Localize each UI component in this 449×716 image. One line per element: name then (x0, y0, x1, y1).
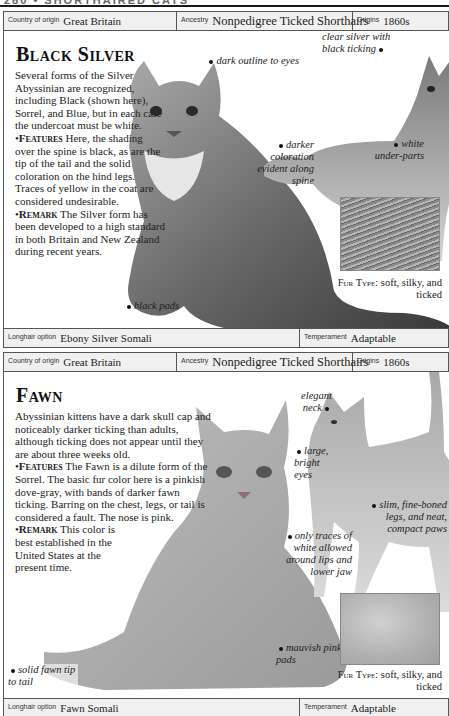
country-label: Country of origin (8, 16, 59, 23)
pointer-dot-icon (209, 60, 213, 64)
caption-pads: mauvish pink pads (276, 642, 346, 666)
ancestry-label: Ancestry (181, 357, 208, 364)
features-label: Features (19, 460, 63, 472)
longhair-cell: Longhair option Fawn Somali (4, 699, 300, 716)
pointer-dot-icon (394, 143, 398, 147)
description-text: Several forms of the Silver Abyssinian a… (15, 69, 165, 258)
longhair-label: Longhair option (8, 703, 56, 710)
description-text: Abyssinian kittens have a dark skull cap… (15, 410, 215, 574)
longhair-label: Longhair option (8, 333, 56, 340)
origins-value: 1860s (383, 15, 409, 27)
country-cell: Country of origin Great Britain (4, 12, 177, 30)
pointer-dot-icon (11, 669, 15, 673)
temperament-label: Temperament (304, 333, 347, 340)
info-bar-fawn: Country of origin Great Britain Ancestry… (3, 352, 449, 372)
footer-bar-black-silver: Longhair option Ebony Silver Somali Temp… (3, 328, 449, 348)
origins-label: Origins (357, 357, 379, 364)
caption-neck: elegant neck (294, 390, 332, 414)
origins-value: 1860s (383, 356, 409, 368)
breed-title: Black Silver (16, 43, 135, 66)
pointer-dot-icon (325, 407, 329, 411)
pointer-dot-icon (288, 535, 292, 539)
country-label: Country of origin (8, 357, 59, 364)
ancestry-cell: Ancestry Nonpedigree Ticked Shorthairs (177, 12, 353, 30)
panel-black-silver: Black Silver Several forms of the Silver… (3, 31, 449, 328)
origins-cell: Origins 1860s (353, 12, 448, 30)
header-rule (0, 5, 449, 7)
pointer-dot-icon (127, 305, 131, 309)
ancestry-value: Nonpedigree Ticked Shorthairs (212, 14, 368, 29)
pointer-dot-icon (279, 144, 283, 148)
longhair-value: Ebony Silver Somali (60, 332, 152, 344)
country-value: Great Britain (63, 15, 121, 27)
origins-cell: Origins 1860s (353, 353, 448, 371)
temperament-value: Adaptable (351, 702, 396, 714)
breed-title: Fawn (16, 384, 63, 407)
temperament-label: Temperament (304, 703, 347, 710)
pointer-dot-icon (297, 450, 301, 454)
longhair-cell: Longhair option Ebony Silver Somali (4, 329, 300, 347)
caption-legs: slim, fine-boned legs, and neat, compact… (352, 499, 447, 535)
remark-label: Remark (19, 523, 58, 535)
caption-spine: darker coloration evident along spine (249, 139, 314, 187)
fur-swatch-image (340, 197, 440, 271)
caption-eyes: large, bright eyes (294, 445, 339, 481)
caption-pads: black pads (124, 300, 214, 312)
origins-label: Origins (357, 16, 379, 23)
fur-swatch-image (340, 593, 440, 665)
pointer-dot-icon (372, 504, 376, 508)
caption-eyes: dark outline to eyes (199, 55, 299, 67)
longhair-value: Fawn Somali (60, 702, 118, 714)
temperament-cell: Temperament Adaptable (300, 699, 448, 716)
caption-underparts: white under-parts (372, 138, 424, 162)
intro-text: Several forms of the Silver Abyssinian a… (15, 69, 162, 131)
temperament-cell: Temperament Adaptable (300, 329, 448, 347)
ancestry-label: Ancestry (181, 16, 208, 23)
pointer-dot-icon (279, 647, 283, 651)
info-bar-black-silver: Country of origin Great Britain Ancestry… (3, 11, 449, 31)
ancestry-cell: Ancestry Nonpedigree Ticked Shorthairs (177, 353, 353, 371)
panel-fawn: Fawn Abyssinian kittens have a dark skul… (3, 372, 449, 698)
temperament-value: Adaptable (351, 332, 396, 344)
intro-text: Abyssinian kittens have a dark skull cap… (15, 410, 211, 460)
caption-ticking: clear silver with black ticking (322, 31, 414, 55)
ancestry-value: Nonpedigree Ticked Shorthairs (212, 355, 368, 370)
caption-white: only traces of white allowed around lips… (262, 530, 352, 578)
fur-type-caption: Fur Type: soft, silky, and ticked (324, 277, 442, 301)
country-value: Great Britain (63, 356, 121, 368)
footer-bar-fawn: Longhair option Fawn Somali Temperament … (3, 698, 449, 716)
country-cell: Country of origin Great Britain (4, 353, 177, 371)
features-label: Features (19, 132, 63, 144)
remark-block: •Remark This color is best established i… (15, 523, 135, 573)
remark-label: Remark (19, 208, 58, 220)
pointer-dot-icon (379, 48, 383, 52)
fur-type-caption: Fur Type: soft, silky, and ticked (324, 669, 442, 693)
caption-tail: solid fawn tip to tail (8, 664, 78, 688)
